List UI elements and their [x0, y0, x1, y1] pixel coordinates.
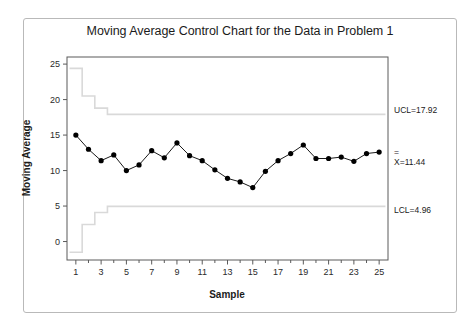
x-tick-label: 23 [349, 267, 359, 277]
x-tick-label: 7 [149, 267, 154, 277]
moving-average-markers [73, 132, 382, 190]
data-point [200, 158, 205, 163]
y-tick-label: 20 [50, 95, 60, 105]
y-axis-ticks: 0510152025 [50, 59, 67, 246]
data-point [124, 168, 129, 173]
data-point [313, 156, 318, 161]
lcl-annotation: LCL=4.96 [394, 205, 431, 215]
data-point [326, 156, 331, 161]
data-point [301, 142, 306, 147]
page-canvas: Moving Average Control Chart for the Dat… [0, 0, 475, 335]
data-point [377, 150, 382, 155]
y-tick-label: 15 [50, 130, 60, 140]
x-tick-label: 3 [99, 267, 104, 277]
x-axis-ticks: 135791113151719212325 [73, 260, 384, 277]
y-tick-label: 10 [50, 166, 60, 176]
data-point [136, 162, 141, 167]
data-point [162, 155, 167, 160]
data-point [238, 179, 243, 184]
y-tick-label: 5 [55, 201, 60, 211]
x-tick-label: 25 [374, 267, 384, 277]
data-point [187, 153, 192, 158]
data-point [339, 154, 344, 159]
x-tick-label: 9 [174, 267, 179, 277]
data-point [225, 176, 230, 181]
data-point [288, 151, 293, 156]
x-tick-label: 17 [273, 267, 283, 277]
y-axis-title: Moving Average [21, 119, 32, 196]
control-chart: 0510152025 135791113151719212325 Sample … [0, 0, 475, 335]
data-point [111, 152, 116, 157]
y-tick-label: 0 [55, 237, 60, 247]
data-point [212, 167, 217, 172]
center-line-annotation: X=11.44 [394, 157, 426, 167]
x-tick-label: 15 [248, 267, 258, 277]
data-point [250, 185, 255, 190]
x-tick-label: 11 [198, 267, 207, 277]
lower-control-limit-line [70, 206, 386, 252]
data-point [86, 147, 91, 152]
data-point [351, 159, 356, 164]
x-axis-title: Sample [209, 289, 245, 300]
x-tick-label: 21 [324, 267, 334, 277]
x-tick-label: 1 [73, 267, 78, 277]
data-point [364, 151, 369, 156]
data-point [263, 169, 268, 174]
x-tick-label: 19 [298, 267, 308, 277]
ucl-annotation: UCL=17.92 [394, 105, 438, 115]
data-point [174, 140, 179, 145]
data-point [99, 158, 104, 163]
upper-control-limit-line [70, 68, 386, 114]
data-point [275, 158, 280, 163]
x-tick-label: 13 [222, 267, 232, 277]
center-line-overbar: = [394, 147, 399, 157]
data-point [73, 132, 78, 137]
x-tick-label: 5 [124, 267, 129, 277]
y-tick-label: 25 [50, 59, 60, 69]
data-point [149, 148, 154, 153]
